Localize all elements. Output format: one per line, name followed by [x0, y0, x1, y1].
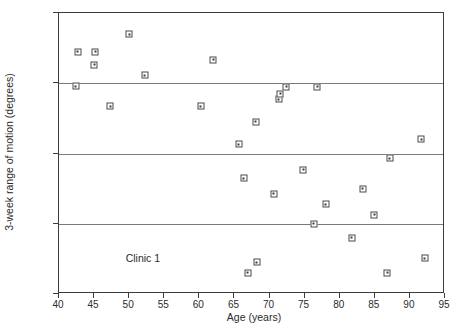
x-axis-tick — [409, 293, 410, 298]
x-axis-tick-label: 40 — [52, 299, 63, 310]
data-point — [253, 259, 260, 266]
data-point — [235, 141, 242, 148]
x-axis-tick — [444, 293, 445, 298]
x-axis-tick-label: 60 — [193, 299, 204, 310]
x-axis-tick-label: 65 — [228, 299, 239, 310]
data-point — [210, 56, 217, 63]
data-point — [126, 31, 133, 38]
x-axis-tick — [198, 293, 199, 298]
data-point — [384, 269, 391, 276]
gridline-45 — [59, 224, 443, 225]
x-axis-tick-label: 85 — [368, 299, 379, 310]
data-point — [418, 136, 425, 143]
x-axis-tick-label: 75 — [298, 299, 309, 310]
data-point — [371, 211, 378, 218]
data-point — [240, 175, 247, 182]
data-point — [310, 220, 317, 227]
x-axis-title: Age (years) — [0, 311, 458, 323]
data-point — [72, 83, 79, 90]
x-axis-tick-label: 70 — [263, 299, 274, 310]
x-axis-tick — [304, 293, 305, 298]
y-axis-title: 3-week range of motion (degrees) — [3, 22, 15, 282]
data-point — [197, 103, 204, 110]
data-point — [277, 90, 284, 97]
data-point — [74, 48, 81, 55]
gridline-85 — [59, 83, 443, 84]
data-point — [91, 61, 98, 68]
data-point — [270, 190, 277, 197]
x-axis-tick — [128, 293, 129, 298]
data-point — [314, 83, 321, 90]
x-axis-tick-label: 80 — [333, 299, 344, 310]
data-point — [244, 269, 251, 276]
plot-area: Clinic 1 — [58, 12, 444, 293]
x-axis-tick — [339, 293, 340, 298]
data-point — [348, 234, 355, 241]
data-point — [107, 103, 114, 110]
data-point — [322, 201, 329, 208]
x-axis-tick-label: 55 — [158, 299, 169, 310]
x-axis-tick-label: 50 — [123, 299, 134, 310]
data-point — [283, 83, 290, 90]
x-axis-tick — [374, 293, 375, 298]
x-axis-tick — [58, 293, 59, 298]
x-axis-tick — [269, 293, 270, 298]
scatter-plot-figure: 10585654525 3-week range of motion (degr… — [0, 0, 458, 331]
x-axis-tick — [93, 293, 94, 298]
data-point — [359, 185, 366, 192]
x-axis-tick — [233, 293, 234, 298]
data-point — [141, 72, 148, 79]
data-point — [386, 155, 393, 162]
data-point — [421, 255, 428, 262]
x-axis-tick-label: 90 — [403, 299, 414, 310]
x-axis-tick — [163, 293, 164, 298]
clinic-annotation: Clinic 1 — [126, 252, 160, 264]
data-point — [252, 118, 259, 125]
x-axis-tick-label: 45 — [88, 299, 99, 310]
data-point — [92, 48, 99, 55]
data-point — [300, 166, 307, 173]
x-axis-tick-label: 95 — [438, 299, 449, 310]
